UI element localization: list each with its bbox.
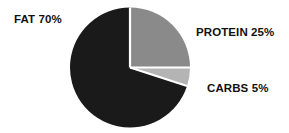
pie-label-carbs: CARBS 5% <box>207 83 269 95</box>
pie-label-protein: PROTEIN 25% <box>196 27 274 39</box>
pie-slice-protein <box>130 8 190 68</box>
pie-label-fat: FAT 70% <box>14 14 62 26</box>
pie-chart-figure: FAT 70% PROTEIN 25% CARBS 5% <box>0 0 289 133</box>
